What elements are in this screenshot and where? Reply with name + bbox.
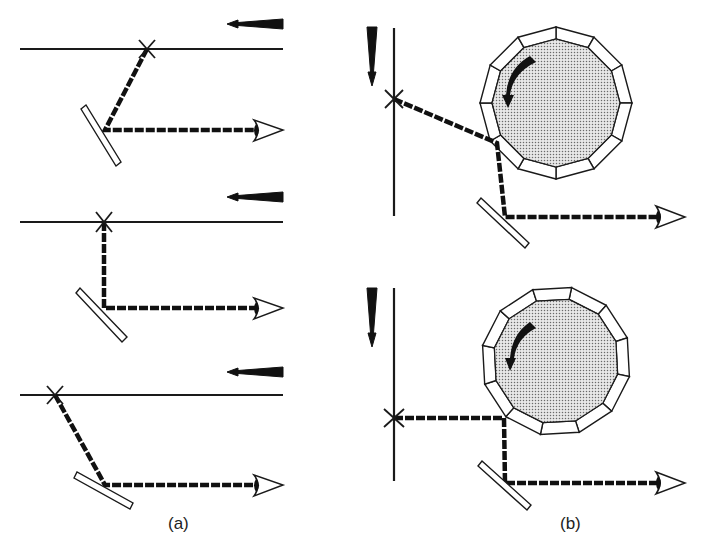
eye-icon: [656, 206, 685, 228]
motion-arrow-icon: [227, 367, 283, 377]
eye-icon: [254, 298, 283, 319]
panel-a-position-2: [20, 192, 283, 342]
panel-a-label: (a): [168, 514, 189, 533]
motion-arrow-icon: [227, 19, 283, 29]
panel-b-position-2: [367, 288, 685, 510]
polygon-mirror: [483, 288, 630, 435]
plane-mirror: [76, 288, 127, 342]
panel-a: (a): [20, 19, 283, 533]
eye-icon: [656, 472, 685, 494]
panel-a-position-1: [20, 19, 283, 166]
panel-b-position-1: [367, 27, 685, 248]
motion-arrow-icon: [367, 27, 377, 86]
light-ray: [55, 395, 262, 485]
panel-a-position-3: [20, 367, 283, 509]
motion-arrow-icon: [227, 192, 283, 202]
panel-b-label: (b): [560, 514, 581, 533]
light-ray: [104, 222, 262, 308]
polygon-mirror: [480, 27, 632, 179]
plane-mirror: [74, 472, 133, 509]
scanning-diagram: (a): [0, 0, 701, 553]
eye-icon: [254, 475, 283, 496]
plane-mirror: [477, 198, 529, 248]
panel-b: (b): [367, 27, 685, 533]
eye-icon: [254, 120, 283, 141]
light-ray: [105, 49, 262, 130]
motion-arrow-icon: [367, 288, 377, 347]
